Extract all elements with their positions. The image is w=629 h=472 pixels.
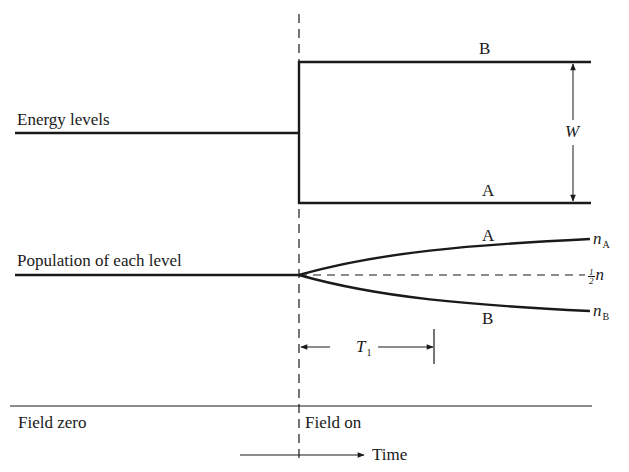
time-label: Time xyxy=(372,446,407,463)
population-a-label: A xyxy=(482,227,494,244)
n-symbol: n xyxy=(593,229,602,248)
level-a-label: A xyxy=(482,182,494,199)
t-symbol: T xyxy=(356,337,365,356)
n-symbol: n xyxy=(596,265,605,284)
n-symbol: n xyxy=(593,301,602,320)
population-label: Population of each level xyxy=(17,252,182,269)
half-n-label: 12n xyxy=(588,266,604,285)
n-a-subscript: A xyxy=(603,239,610,250)
diagram-canvas xyxy=(0,0,629,472)
field-on-label: Field on xyxy=(305,414,361,431)
level-b-label: B xyxy=(479,40,490,57)
t1-label: T1 xyxy=(356,338,371,355)
n-b-subscript: B xyxy=(603,311,610,322)
n-a-label: nA xyxy=(593,230,610,247)
n-b-label: nB xyxy=(593,302,609,319)
energy-levels-label: Energy levels xyxy=(17,111,110,128)
t1-subscript: 1 xyxy=(366,347,371,358)
field-zero-label: Field zero xyxy=(18,414,86,431)
population-b-curve xyxy=(299,275,590,311)
population-a-curve xyxy=(299,239,590,275)
one-half-fraction: 12 xyxy=(588,268,595,285)
w-gap-label: W xyxy=(565,123,579,140)
population-b-label: B xyxy=(482,310,493,327)
